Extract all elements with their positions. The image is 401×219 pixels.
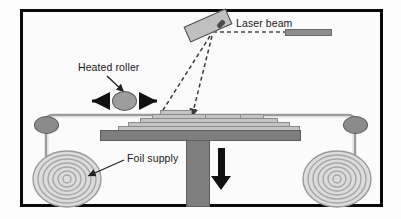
heated-roller-label: Heated roller — [78, 62, 139, 73]
foil-spool-right — [303, 151, 371, 207]
platform-descent-arrow-head — [211, 176, 231, 190]
heated-roller-leader — [107, 76, 124, 92]
figure-canvas: Laser beam Heated roller Foil supply — [0, 0, 401, 219]
heated-roller — [112, 91, 137, 111]
guide-roller-right — [343, 116, 368, 134]
laser-beam-label: Laser beam — [236, 18, 292, 29]
guide-roller-left — [34, 116, 59, 134]
stack-top-block-right — [205, 114, 241, 119]
build-column — [186, 140, 210, 207]
foil-spool-left — [33, 151, 101, 207]
laser-source-bar — [285, 29, 332, 36]
stack-top-block-left — [160, 110, 192, 115]
foil-supply-label: Foil supply — [127, 153, 178, 164]
platform-descent-arrow — [218, 148, 225, 178]
